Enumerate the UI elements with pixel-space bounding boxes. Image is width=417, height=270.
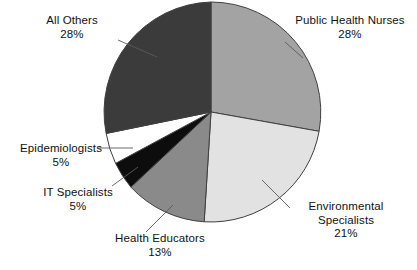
pie-label-public-health-nurses: Public Health Nurses 28% [288,14,412,41]
pie-label-environmental-specialists-name-line1: Environmental [288,200,404,214]
pie-label-epidemiologists-name: Epidemiologists [2,142,120,156]
pie-label-all-others-pct: 28% [24,28,120,42]
pie-label-it-specialists: IT Specialists 5% [28,186,128,213]
pie-label-it-specialists-name: IT Specialists [28,186,128,200]
pie-label-environmental-specialists-name-line2: Specialists [288,214,404,228]
pie-label-all-others-name: All Others [24,14,120,28]
pie-label-environmental-specialists: Environmental Specialists 21% [288,200,404,241]
pie-label-public-health-nurses-pct: 28% [288,28,412,42]
pie-chart-figure: All Others 28% Public Health Nurses 28% … [0,0,417,270]
pie-label-epidemiologists: Epidemiologists 5% [2,142,120,169]
pie-label-health-educators-pct: 13% [98,246,222,260]
pie-label-it-specialists-pct: 5% [28,200,128,214]
pie-label-health-educators-name: Health Educators [98,232,222,246]
pie-label-public-health-nurses-name: Public Health Nurses [288,14,412,28]
pie-label-all-others: All Others 28% [24,14,120,41]
pie-label-environmental-specialists-pct: 21% [288,227,404,241]
pie-label-epidemiologists-pct: 5% [2,156,120,170]
pie-slice-all-others [104,2,211,133]
pie-label-health-educators: Health Educators 13% [98,232,222,259]
